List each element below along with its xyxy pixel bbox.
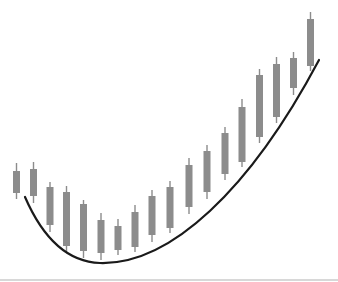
candle <box>115 219 122 255</box>
candle <box>256 69 263 143</box>
candle-body <box>239 107 246 162</box>
candle-body <box>186 165 193 207</box>
candle <box>204 145 211 199</box>
candle <box>63 186 70 252</box>
candle-body <box>115 226 122 250</box>
candle <box>132 205 139 252</box>
candle-body <box>47 187 54 225</box>
candle-body <box>204 151 211 192</box>
candle <box>290 52 297 95</box>
candle <box>149 190 156 242</box>
candle <box>167 181 174 233</box>
candle <box>307 12 314 71</box>
candle-body <box>256 75 263 137</box>
candle <box>98 213 105 260</box>
candle-body <box>167 187 174 228</box>
bottom-divider <box>0 279 338 281</box>
candle <box>13 163 20 199</box>
candle-body <box>98 220 105 253</box>
candle <box>186 158 193 214</box>
candle-body <box>13 171 20 193</box>
candles-group <box>13 12 314 260</box>
candlestick-chart <box>0 0 338 282</box>
candle <box>273 57 280 123</box>
candle-body <box>222 133 229 174</box>
candle-body <box>63 192 70 246</box>
candle-body <box>307 19 314 66</box>
candle <box>80 200 87 258</box>
candle <box>47 182 54 232</box>
candle-body <box>30 169 37 196</box>
candle-body <box>132 212 139 247</box>
candle-body <box>80 204 87 251</box>
candle-body <box>290 58 297 88</box>
candle <box>239 99 246 167</box>
candle-body <box>149 196 156 235</box>
candle <box>222 127 229 180</box>
candle-body <box>273 64 280 117</box>
candle <box>30 162 37 203</box>
